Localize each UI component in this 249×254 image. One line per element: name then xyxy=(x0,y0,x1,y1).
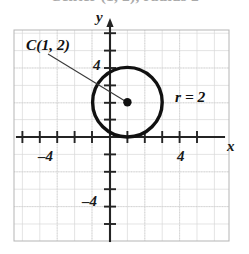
center-annotation-label: C(1, 2) xyxy=(26,36,70,54)
x-tick-label-neg4: –4 xyxy=(38,148,53,165)
y-tick-label-neg4: –4 xyxy=(82,193,97,210)
radius-annotation-label: r = 2 xyxy=(175,88,205,106)
y-tick-label-pos4: 4 xyxy=(93,57,101,74)
y-axis-label: y xyxy=(96,9,103,26)
center-point-dot xyxy=(123,98,131,106)
circle-graph-figure: Center (1, 2), radius 2 xyxy=(0,0,249,254)
x-tick-label-pos4: 4 xyxy=(177,148,185,165)
x-axis-label: x xyxy=(227,138,235,155)
